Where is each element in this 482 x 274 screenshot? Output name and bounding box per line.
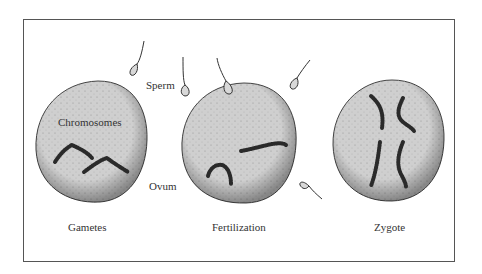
chromosomes-label: Chromosomes (58, 116, 122, 128)
stage-caption-zygote: Zygote (374, 221, 405, 233)
sperm (300, 182, 322, 199)
ovum-cell-gametes (36, 81, 147, 202)
zygote-cell (333, 80, 444, 201)
ovum-cell-fertilization (182, 83, 296, 203)
sperm (130, 41, 144, 75)
stage-caption-gametes: Gametes (68, 221, 106, 233)
sperm (290, 60, 310, 89)
sperm (181, 57, 189, 96)
ovum-label: Ovum (149, 180, 177, 192)
sperm-label: Sperm (146, 79, 175, 91)
stage-caption-fertilization: Fertilization (212, 221, 266, 233)
